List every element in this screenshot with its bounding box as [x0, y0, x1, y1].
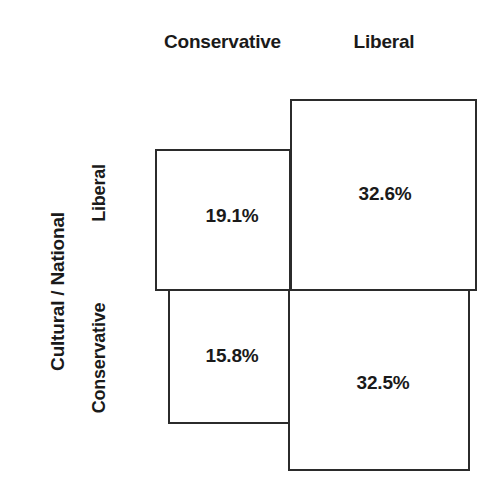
- column-header-liberal: Liberal: [320, 32, 448, 51]
- y-axis-title: Cultural / National: [48, 177, 67, 407]
- mosaic-plot-figure: Conservative Liberal Cultural / National…: [0, 0, 497, 502]
- column-header-conservative: Conservative: [135, 32, 310, 51]
- row-label-conservative: Conservative: [90, 268, 108, 448]
- mosaic-value-liberal-conservative: 32.5%: [333, 373, 433, 392]
- mosaic-value-liberal-liberal: 32.6%: [335, 184, 435, 203]
- row-label-liberal: Liberal: [90, 123, 108, 263]
- mosaic-value-conservative-conservative: 15.8%: [182, 346, 282, 365]
- mosaic-value-conservative-liberal: 19.1%: [182, 206, 282, 225]
